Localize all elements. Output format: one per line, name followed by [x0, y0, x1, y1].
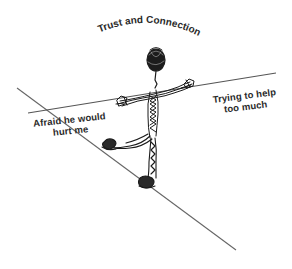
- figure-neck: [155, 71, 157, 88]
- figure-left-leg: [102, 134, 152, 150]
- diagram-title-text: Trust and Connection: [96, 14, 203, 38]
- diagram-canvas: Trust and Connection: [0, 0, 292, 269]
- figure-head: [147, 48, 165, 72]
- diagram-title: Trust and Connection: [96, 14, 203, 38]
